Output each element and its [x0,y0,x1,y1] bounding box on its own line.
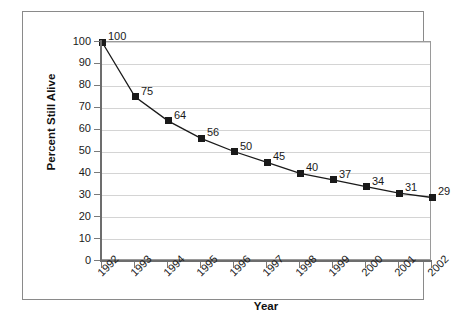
y-tick-label: 20 [51,211,91,222]
y-tick-mark [94,85,100,86]
y-tick-label: 40 [51,167,91,178]
y-tick-mark [94,107,100,108]
y-tick-mark [94,172,100,173]
data-point-label: 56 [207,127,219,138]
y-tick-mark [94,238,100,239]
y-axis-line [100,40,102,262]
data-marker [198,135,205,142]
y-tick-label: 70 [51,101,91,112]
y-tick-label: 10 [51,233,91,244]
y-tick-mark [94,151,100,152]
data-marker [231,148,238,155]
y-tick-mark [94,63,100,64]
data-point-label: 29 [438,186,450,197]
plot-area [101,41,431,260]
data-marker [396,190,403,197]
y-tick-label: 90 [51,57,91,68]
y-tick-mark [94,216,100,217]
data-point-label: 64 [174,110,186,121]
x-axis-title: Year [101,300,431,312]
y-tick-label: 80 [51,79,91,90]
y-tick-label: 50 [51,145,91,156]
y-tick-mark [94,129,100,130]
y-tick-label: 100 [51,36,91,47]
y-tick-mark [94,260,100,261]
data-marker [429,194,436,201]
data-point-label: 100 [108,31,126,42]
data-point-label: 37 [339,169,351,180]
series-line [102,42,432,261]
data-marker [363,183,370,190]
data-point-label: 34 [372,176,384,187]
y-tick-label: 60 [51,123,91,134]
data-point-label: 40 [306,162,318,173]
data-point-label: 45 [273,151,285,162]
x-tick-label: 1992 [95,253,121,279]
y-tick-mark [94,41,100,42]
y-axis-title: Percent Still Alive [45,32,57,212]
data-point-label: 31 [405,182,417,193]
y-tick-label: 0 [51,255,91,266]
y-tick-label: 30 [51,189,91,200]
data-point-label: 75 [141,86,153,97]
chart-frame: 0102030405060708090100 19921993199419951… [22,11,424,300]
data-point-label: 50 [240,141,252,152]
y-tick-mark [94,194,100,195]
data-marker [264,159,271,166]
data-marker [297,170,304,177]
data-marker [330,176,337,183]
data-marker [132,93,139,100]
data-marker [165,117,172,124]
